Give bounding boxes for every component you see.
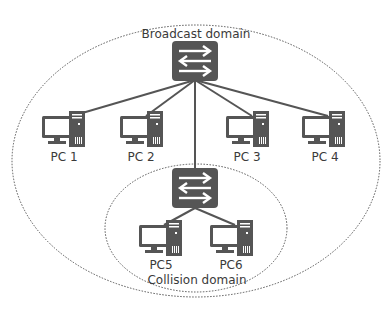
pc2-icon xyxy=(120,111,163,147)
pc4-label: PC 4 xyxy=(311,151,338,163)
link-switch-pc6 xyxy=(195,208,235,225)
switch-bottom-icon xyxy=(172,168,218,208)
link-switch-pc4 xyxy=(195,80,328,116)
pc6-label: PC6 xyxy=(219,259,242,271)
broadcast-domain-label: Broadcast domain xyxy=(142,28,251,40)
pc6-icon xyxy=(210,220,253,256)
switch-top-icon xyxy=(172,41,218,81)
pc2-label: PC 2 xyxy=(127,151,154,163)
pc5-label: PC5 xyxy=(149,259,172,271)
link-switch-pc2 xyxy=(146,80,195,116)
pc3-icon xyxy=(226,111,269,147)
pc1-label: PC 1 xyxy=(50,151,77,163)
pc5-icon xyxy=(139,220,182,256)
pc1-icon xyxy=(42,111,85,147)
link-switch-pc3 xyxy=(195,80,252,116)
pc3-label: PC 3 xyxy=(233,151,260,163)
pc4-icon xyxy=(302,111,345,147)
collision-domain-label: Collision domain xyxy=(147,274,246,286)
link-switch-pc1 xyxy=(72,80,195,116)
